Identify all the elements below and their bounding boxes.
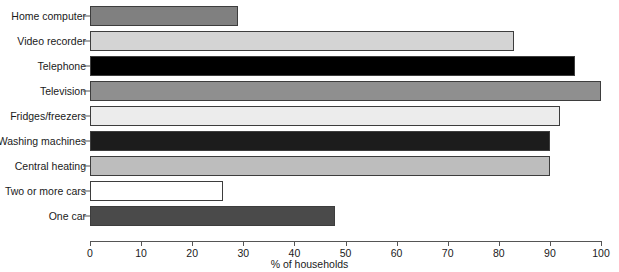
- bar-row: Fridges/freezers: [0, 103, 619, 128]
- bar-row: Two or more cars: [0, 179, 619, 204]
- category-label: One car: [49, 210, 86, 222]
- category-label: Video recorder: [17, 35, 86, 47]
- bar-row: Washing machines: [0, 129, 619, 154]
- bar-row: Central heating: [0, 154, 619, 179]
- bar-row: Television: [0, 78, 619, 103]
- category-label: Telephone: [38, 60, 86, 72]
- category-tick: [83, 90, 90, 91]
- x-tick: [550, 241, 551, 246]
- bar: [90, 206, 335, 226]
- plot-area: Home computerVideo recorderTelephoneTele…: [0, 0, 619, 240]
- category-tick: [83, 40, 90, 41]
- category-tick: [83, 15, 90, 16]
- bar: [90, 81, 601, 101]
- category-label: Television: [40, 85, 86, 97]
- bar-row: Video recorder: [0, 28, 619, 53]
- bar-row: Telephone: [0, 53, 619, 78]
- x-tick: [192, 241, 193, 246]
- category-label: Home computer: [11, 10, 86, 22]
- bar-row: One car: [0, 204, 619, 229]
- bar-chart: Home computerVideo recorderTelephoneTele…: [0, 0, 619, 272]
- category-tick: [83, 216, 90, 217]
- category-tick: [83, 166, 90, 167]
- x-tick: [141, 241, 142, 246]
- bar: [90, 106, 560, 126]
- x-axis-title: % of households: [0, 258, 619, 270]
- category-label: Fridges/freezers: [10, 110, 86, 122]
- x-tick: [90, 241, 91, 246]
- category-tick: [83, 141, 90, 142]
- x-tick: [448, 241, 449, 246]
- x-tick: [397, 241, 398, 246]
- category-label: Central heating: [15, 160, 86, 172]
- x-tick: [601, 241, 602, 246]
- bar-row: Home computer: [0, 3, 619, 28]
- x-tick: [294, 241, 295, 246]
- category-tick: [83, 191, 90, 192]
- bar: [90, 56, 575, 76]
- x-tick: [243, 241, 244, 246]
- bar: [90, 131, 550, 151]
- bar: [90, 6, 238, 26]
- category-label: Washing machines: [0, 135, 86, 147]
- bar: [90, 156, 550, 176]
- category-label: Two or more cars: [5, 185, 86, 197]
- category-tick: [83, 115, 90, 116]
- bar: [90, 181, 223, 201]
- x-tick: [499, 241, 500, 246]
- bar: [90, 31, 514, 51]
- x-tick: [346, 241, 347, 246]
- category-tick: [83, 65, 90, 66]
